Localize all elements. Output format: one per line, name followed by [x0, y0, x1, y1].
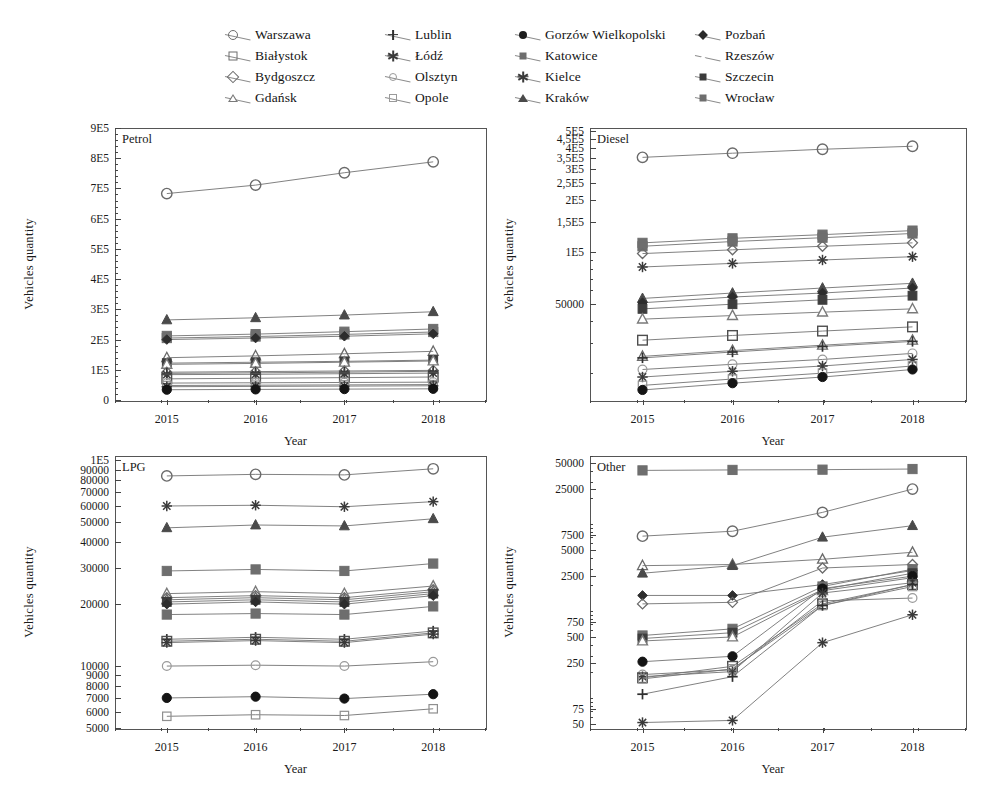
series-pozba-	[162, 329, 438, 344]
series-line	[643, 576, 913, 662]
series-line	[643, 569, 913, 635]
chart-legend: WarszawaBiałystokBydgoszczGdańskLublinŁó…	[225, 24, 825, 110]
series-line	[643, 340, 913, 356]
series-line	[167, 162, 433, 194]
legend-marker	[225, 50, 251, 62]
series-line	[643, 369, 913, 389]
panel-petrol: PetrolVehicles quantity01E52E53E54E55E56…	[20, 120, 480, 420]
legend-item-szczecin[interactable]: Szczecin	[695, 66, 825, 87]
legend-item-label: Białystok	[255, 49, 308, 63]
legend-item-label: Kielce	[545, 70, 581, 84]
legend-marker	[515, 92, 541, 104]
series-line	[167, 502, 433, 507]
legend-item-wroc-aw[interactable]: Wrocław	[695, 87, 825, 108]
legend-item-lublin[interactable]: Lublin	[385, 24, 515, 45]
legend-marker	[515, 71, 541, 83]
legend-item-label: Gdańsk	[255, 91, 297, 105]
series--d-	[162, 496, 439, 512]
series-wroc-aw	[162, 602, 438, 619]
series-line	[167, 389, 433, 390]
legend-marker	[515, 29, 541, 41]
legend-marker	[515, 50, 541, 62]
star-marker-icon	[518, 72, 528, 82]
legend-marker-glyph	[389, 94, 397, 102]
diamond-o-marker-icon	[227, 70, 240, 83]
series-line	[643, 615, 913, 723]
series-layer	[500, 120, 980, 420]
legend-item-warszawa[interactable]: Warszawa	[225, 24, 385, 45]
legend-item-kielce[interactable]: Kielce	[515, 66, 695, 87]
series-line	[167, 586, 433, 594]
series-krak-w	[162, 513, 438, 531]
series-line	[643, 469, 913, 470]
series-warszawa	[637, 484, 917, 541]
series-layer	[20, 448, 480, 753]
x-axis-label: Year	[284, 762, 307, 777]
series-line	[643, 146, 913, 157]
legend-column: WarszawaBiałystokBydgoszczGdańsk	[225, 24, 385, 110]
circle-f-marker-icon	[519, 31, 527, 39]
series-gda-sk	[638, 572, 918, 645]
legend-item-olsztyn[interactable]: Olsztyn	[385, 66, 515, 87]
legend-item-label: Lublin	[415, 28, 452, 42]
series-katowice	[162, 559, 438, 576]
series-opole	[163, 705, 438, 721]
series-rzesz-w	[162, 346, 438, 362]
legend-item-label: Opole	[415, 91, 449, 105]
series-kielce	[637, 354, 917, 382]
series-line	[167, 469, 433, 476]
square-o-marker-icon	[229, 51, 238, 60]
legend-marker	[225, 92, 251, 104]
legend-marker-glyph	[388, 30, 398, 40]
series-line	[167, 351, 433, 357]
series-pozba-	[638, 283, 918, 307]
x-axis-label: Year	[762, 434, 785, 449]
legend-item-label: Łódź	[415, 49, 443, 63]
legend-marker	[695, 92, 721, 104]
series-line	[167, 633, 433, 641]
legend-marker-glyph	[700, 31, 707, 38]
legend-item-label: Bydgoszcz	[255, 70, 315, 84]
series-line	[643, 283, 913, 298]
series-szczecin	[162, 589, 437, 606]
panel-diesel: DieselVehicles quantity500001E51,5E52E52…	[500, 120, 980, 420]
series-line	[167, 382, 433, 383]
legend-marker	[695, 29, 721, 41]
legend-item-label: Wrocław	[725, 91, 775, 105]
series-opole	[163, 380, 438, 389]
legend-column: PozbańRzeszówSzczecinWrocław	[695, 24, 825, 110]
legend-marker-glyph	[519, 31, 527, 39]
legend-item-gorz-w-wielkopolski[interactable]: Gorzów Wielkopolski	[515, 24, 695, 45]
tri-o-marker-icon	[698, 52, 708, 60]
series-line	[167, 564, 433, 571]
legend-marker-glyph	[229, 72, 238, 81]
series-line	[643, 231, 913, 243]
legend-item-label: Pozbań	[725, 28, 765, 42]
legend-item-opole[interactable]: Opole	[385, 87, 515, 108]
square-f-marker-icon	[700, 94, 707, 101]
legend-marker-glyph	[520, 52, 527, 59]
x-minor-tick	[485, 400, 486, 403]
legend-item-rzesz-w[interactable]: Rzeszów	[695, 45, 825, 66]
series-line	[643, 552, 913, 565]
series-line	[167, 386, 433, 387]
series-opole	[638, 362, 916, 390]
tri-ow-marker-icon	[228, 94, 238, 102]
series-bydgoszcz	[638, 560, 918, 609]
legend-item--d-[interactable]: Łódź	[385, 45, 515, 66]
legend-item-bia-ystok[interactable]: Białystok	[225, 45, 385, 66]
legend-item-pozba-[interactable]: Pozbań	[695, 24, 825, 45]
legend-item-gda-sk[interactable]: Gdańsk	[225, 87, 385, 108]
legend-item-label: Rzeszów	[725, 49, 774, 63]
legend-item-bydgoszcz[interactable]: Bydgoszcz	[225, 66, 385, 87]
legend-marker	[225, 71, 251, 83]
legend-marker-glyph	[229, 51, 238, 60]
series-line	[167, 385, 433, 386]
legend-marker	[695, 71, 721, 83]
legend-item-krak-w[interactable]: Kraków	[515, 87, 695, 108]
legend-item-katowice[interactable]: Katowice	[515, 45, 695, 66]
square-dk-marker-icon	[700, 73, 707, 80]
series-line	[643, 573, 913, 638]
series-wroc-aw	[638, 565, 917, 640]
series-line	[167, 312, 433, 320]
